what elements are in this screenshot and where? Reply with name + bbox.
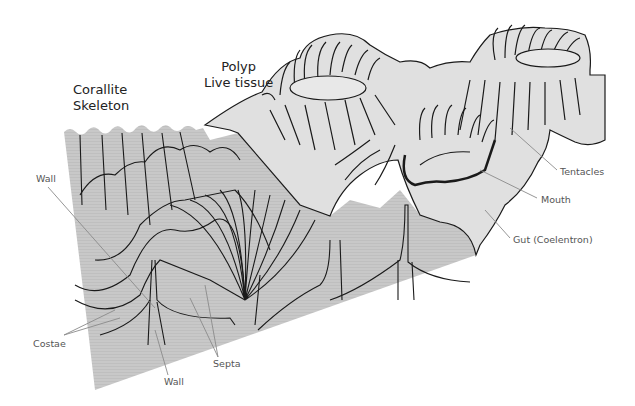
label-wall-bottom: Wall (164, 377, 184, 387)
skeleton-title: Corallite Skeleton (73, 82, 129, 114)
skeleton-title-line1: Corallite (73, 82, 129, 98)
polyp-title: Polyp Live tissue (204, 59, 273, 91)
label-costae: Costae (33, 339, 66, 349)
skeleton-title-line2: Skeleton (73, 98, 129, 114)
polyp-title-line2: Live tissue (204, 75, 273, 91)
coral-diagram (0, 0, 635, 406)
label-tentacles: Tentacles (560, 167, 604, 177)
polyp-title-line1: Polyp (204, 59, 273, 75)
label-septa: Septa (213, 359, 240, 369)
label-gut: Gut (Coelentron) (513, 235, 593, 245)
label-wall-top: Wall (36, 174, 56, 184)
label-mouth: Mouth (541, 195, 571, 205)
